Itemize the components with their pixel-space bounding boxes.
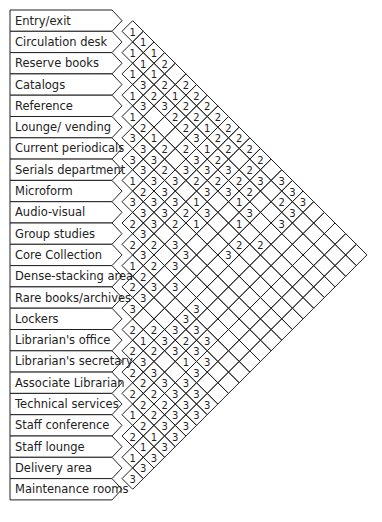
relationship-value: 3 bbox=[183, 250, 189, 261]
space-label: Librarian's office bbox=[10, 330, 122, 351]
relationship-value: 1 bbox=[151, 432, 157, 443]
relationship-value: 3 bbox=[172, 197, 178, 208]
space-label: Reference bbox=[10, 95, 122, 116]
matrix-cell bbox=[250, 298, 271, 319]
relationship-value: 1 bbox=[236, 219, 242, 230]
matrix-cell bbox=[229, 361, 250, 382]
matrix-cell bbox=[282, 287, 303, 308]
space-label-text: Staff conference bbox=[15, 418, 109, 432]
relationship-value: 3 bbox=[172, 282, 178, 293]
relationship-value: 1 bbox=[204, 123, 210, 134]
matrix-cell bbox=[314, 276, 335, 297]
relationship-value: 1 bbox=[129, 261, 135, 272]
relationship-value: 1 bbox=[129, 48, 135, 59]
relationship-value: 2 bbox=[225, 123, 231, 134]
relationship-value: 3 bbox=[193, 368, 199, 379]
relationship-value: 2 bbox=[129, 346, 135, 357]
relationship-value: 2 bbox=[140, 187, 146, 198]
matrix-cell bbox=[335, 255, 356, 276]
matrix-cell bbox=[218, 351, 239, 372]
matrix-cell bbox=[324, 223, 345, 244]
matrix-cell bbox=[186, 255, 207, 276]
matrix-cell bbox=[229, 276, 250, 297]
matrix-cell bbox=[175, 266, 196, 287]
matrix-cell bbox=[260, 308, 281, 329]
matrix-cell-values: 1111111312132231232223122332223223121333… bbox=[129, 27, 306, 485]
space-label-text: Librarian's office bbox=[15, 333, 110, 347]
relationship-value: 1 bbox=[193, 219, 199, 230]
relationship-value: 3 bbox=[193, 304, 199, 315]
relationship-value: 3 bbox=[151, 453, 157, 464]
relationship-value: 1 bbox=[129, 112, 135, 123]
space-label: Audio-visual bbox=[10, 202, 122, 223]
relationship-value: 3 bbox=[289, 187, 295, 198]
space-label-text: Maintenance rooms bbox=[15, 482, 128, 496]
relationship-value: 3 bbox=[172, 176, 178, 187]
matrix-cell bbox=[282, 223, 303, 244]
relationship-value: 3 bbox=[204, 336, 210, 347]
relationship-value: 2 bbox=[161, 165, 167, 176]
relationship-value: 3 bbox=[172, 346, 178, 357]
matrix-cell bbox=[207, 212, 228, 233]
relationship-value: 3 bbox=[172, 410, 178, 421]
matrix-cell bbox=[186, 276, 207, 297]
relationship-value: 1 bbox=[140, 442, 146, 453]
relationship-value: 1 bbox=[172, 91, 178, 102]
space-label-text: Current periodicals bbox=[15, 141, 124, 155]
matrix-grid bbox=[122, 21, 367, 490]
relationship-value: 2 bbox=[151, 240, 157, 251]
relationship-value: 3 bbox=[140, 250, 146, 261]
relationship-value: 1 bbox=[183, 357, 189, 368]
space-label: Staff conference bbox=[10, 415, 122, 436]
matrix-cell bbox=[207, 319, 228, 340]
matrix-cell bbox=[239, 308, 260, 329]
relationship-value: 3 bbox=[151, 282, 157, 293]
space-label-text: Entry/exit bbox=[15, 14, 71, 28]
relationship-value: 1 bbox=[129, 69, 135, 80]
space-label-text: Rare books/archives bbox=[15, 291, 131, 305]
relationship-value: 3 bbox=[129, 474, 135, 485]
relationship-value: 2 bbox=[140, 272, 146, 283]
matrix-cell bbox=[346, 244, 367, 265]
space-label: Lockers bbox=[10, 308, 122, 329]
relationship-value: 3 bbox=[140, 357, 146, 368]
matrix-cell bbox=[271, 234, 292, 255]
relationship-value: 2 bbox=[151, 389, 157, 400]
relationship-value: 3 bbox=[140, 463, 146, 474]
matrix-cell bbox=[218, 287, 239, 308]
relationship-value: 2 bbox=[129, 389, 135, 400]
matrix-cell bbox=[292, 212, 313, 233]
matrix-cell bbox=[218, 372, 239, 393]
relationship-value: 1 bbox=[151, 48, 157, 59]
matrix-cell bbox=[314, 234, 335, 255]
relationship-value: 3 bbox=[279, 176, 285, 187]
relationship-value: 2 bbox=[129, 432, 135, 443]
relationship-value: 3 bbox=[151, 197, 157, 208]
relationship-value: 2 bbox=[247, 165, 253, 176]
relationship-value: 2 bbox=[161, 59, 167, 70]
relationship-value: 3 bbox=[129, 155, 135, 166]
space-label: Group studies bbox=[10, 223, 122, 244]
relationship-value: 3 bbox=[161, 421, 167, 432]
relationship-value: 3 bbox=[140, 208, 146, 219]
relationship-value: 2 bbox=[183, 144, 189, 155]
relationship-value: 3 bbox=[151, 219, 157, 230]
relationship-value: 3 bbox=[161, 208, 167, 219]
space-label-text: Dense-stacking area bbox=[15, 269, 133, 283]
space-label: Microform bbox=[10, 180, 122, 201]
space-label-text: Delivery area bbox=[15, 461, 92, 475]
space-label-text: Core Collection bbox=[15, 248, 102, 262]
matrix-cell bbox=[260, 266, 281, 287]
space-label: Lounge/ vending bbox=[10, 117, 122, 138]
matrix-cell bbox=[292, 234, 313, 255]
space-label-text: Staff lounge bbox=[15, 440, 85, 454]
relationship-value: 3 bbox=[193, 133, 199, 144]
matrix-cell bbox=[314, 212, 335, 233]
relationship-value: 3 bbox=[204, 208, 210, 219]
space-label-text: Lounge/ vending bbox=[15, 120, 111, 134]
relationship-value: 1 bbox=[129, 453, 135, 464]
matrix-cell bbox=[303, 287, 324, 308]
matrix-cell bbox=[197, 244, 218, 265]
matrix-cell bbox=[218, 266, 239, 287]
space-label: Rare books/archives bbox=[10, 287, 131, 308]
